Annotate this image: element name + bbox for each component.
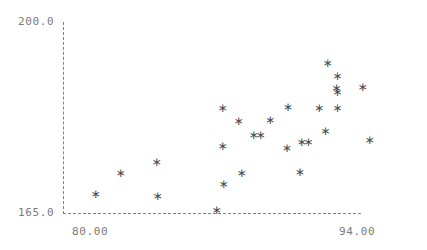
data-point: ∗: [332, 87, 341, 98]
data-point: ∗: [283, 102, 292, 113]
data-point: ∗: [91, 189, 100, 200]
data-point: ∗: [365, 135, 374, 146]
data-point-layer: ∗∗∗∗∗∗∗∗∗∗∗∗∗∗∗∗∗∗∗∗∗∗∗∗∗∗∗: [0, 0, 427, 250]
data-point: ∗: [152, 157, 161, 168]
data-point: ∗: [234, 116, 243, 127]
scatter-plot-figure: 200.0 165.0 80.00 94.00 ∗∗∗∗∗∗∗∗∗∗∗∗∗∗∗∗…: [0, 0, 427, 250]
data-point: ∗: [358, 82, 367, 93]
data-point: ∗: [332, 103, 341, 114]
data-point: ∗: [303, 137, 312, 148]
data-point: ∗: [255, 130, 264, 141]
data-point: ∗: [314, 103, 323, 114]
data-point: ∗: [218, 141, 227, 152]
data-point: ∗: [115, 168, 124, 179]
data-point: ∗: [320, 126, 329, 137]
data-point: ∗: [265, 115, 274, 126]
data-point: ∗: [282, 143, 291, 154]
data-point: ∗: [322, 58, 331, 69]
data-point: ∗: [237, 168, 246, 179]
data-point: ∗: [295, 167, 304, 178]
data-point: ∗: [212, 205, 221, 216]
data-point: ∗: [152, 191, 161, 202]
data-point: ∗: [218, 179, 227, 190]
data-point: ∗: [218, 103, 227, 114]
data-point: ∗: [332, 71, 341, 82]
